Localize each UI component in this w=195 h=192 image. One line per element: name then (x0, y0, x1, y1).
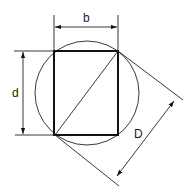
rectangle-in-circle-diagram: b d D (0, 0, 195, 192)
d-label: d (12, 86, 19, 100)
D-dimension-arrow (117, 101, 174, 176)
D-label: D (134, 127, 143, 141)
b-label: b (83, 11, 90, 25)
D-extension-line-lower (55, 135, 119, 186)
rectangle-diagonal (55, 51, 118, 135)
D-extension-line-upper (118, 51, 183, 100)
